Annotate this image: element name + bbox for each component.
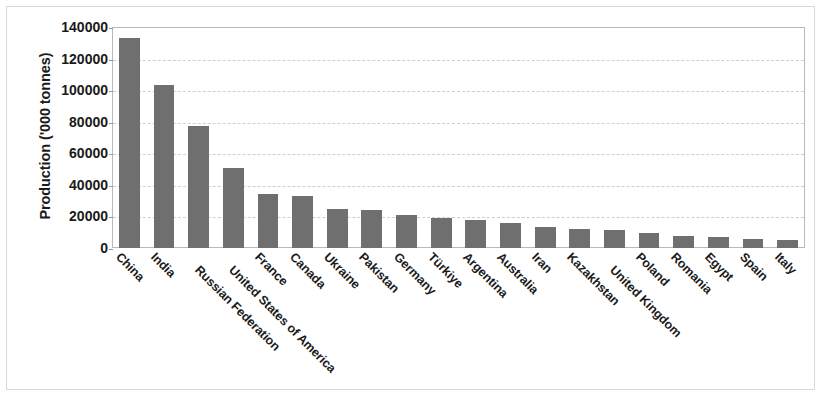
y-axis-tick-label: 120000	[50, 51, 108, 67]
y-axis-tickmark	[109, 154, 113, 155]
y-axis-tick-label: 140000	[50, 19, 108, 35]
gridline	[113, 217, 804, 218]
y-axis-tick-label: 0	[50, 240, 108, 256]
y-axis-tickmark	[109, 186, 113, 187]
y-axis-tick-label: 100000	[50, 82, 108, 98]
y-axis-tickmark	[109, 217, 113, 218]
x-axis-tick-label: Poland	[633, 250, 672, 289]
y-axis-tickmark	[109, 60, 113, 61]
plot-area	[112, 27, 805, 248]
gridline	[113, 60, 804, 61]
x-axis-tick-label: India	[148, 250, 178, 280]
gridline	[113, 123, 804, 124]
gridline	[113, 154, 804, 155]
y-axis-tickmark	[109, 123, 113, 124]
gridline	[113, 186, 804, 187]
y-axis-tick-labels: 140000120000100000800006000040000200000	[50, 27, 108, 248]
x-axis-tick-label: Canada	[287, 250, 328, 291]
y-axis-tick-label: 20000	[50, 208, 108, 224]
x-axis-tick-label: Ukraine	[321, 250, 363, 292]
x-axis-tick-label: China	[113, 250, 147, 284]
x-axis-tick-label: Spain	[737, 250, 771, 284]
x-axis-tick-label: Italy	[772, 250, 799, 277]
y-axis-tick-label: 40000	[50, 177, 108, 193]
y-axis-tick-label: 80000	[50, 114, 108, 130]
x-axis-tick-label: Iran	[529, 250, 555, 276]
y-axis-tickmark	[109, 28, 113, 29]
gridline	[113, 91, 804, 92]
x-axis-tick-label: France	[252, 250, 290, 288]
y-axis-tickmark	[109, 91, 113, 92]
y-axis-tick-label: 60000	[50, 145, 108, 161]
x-axis-tick-labels: ChinaIndiaRussian FederationUnited State…	[112, 250, 812, 390]
chart-screenshot: Production ('000 tonnes) 140000120000100…	[0, 0, 821, 396]
